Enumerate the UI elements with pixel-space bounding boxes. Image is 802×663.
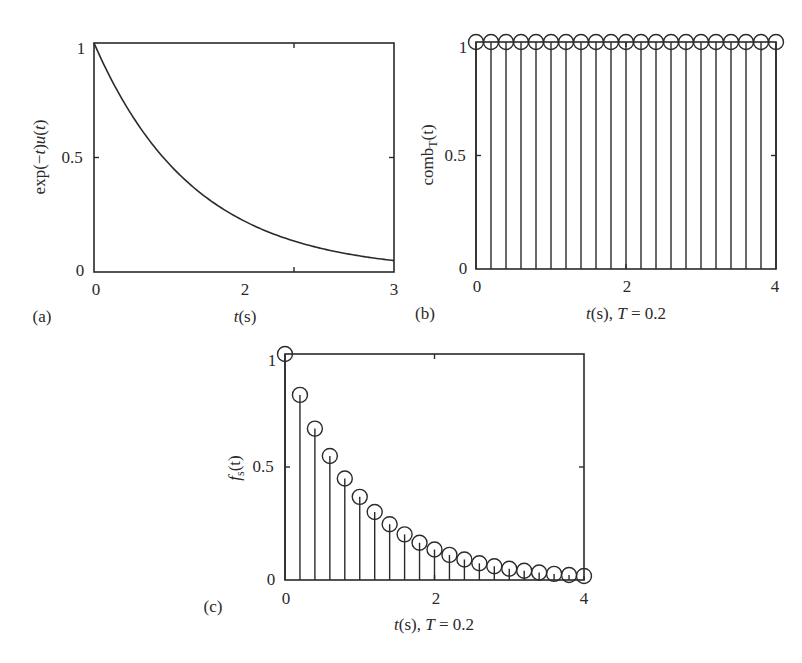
panel-a-ticks [94,43,394,272]
panel-c-sampled: 0 0.5 1 0 2 4 t(s), T = 0.2 fs(t) (c) [204,347,592,635]
panel-a-xlabel: t(s) [234,307,257,326]
panel-c-ylabel: fs(t) [225,455,247,480]
figure: 0 0.5 1 0 2 3 t(s) exp(−t)u(t) (a) 0 0.5… [0,0,802,663]
panel-a-ytick-1: 1 [77,39,86,58]
panel-a-tag: (a) [33,307,52,326]
panel-a-xtick-3: 3 [390,280,399,299]
panel-b-ylabel: combT(t) [418,124,440,185]
panel-c-ytick-0: 0 [267,570,276,589]
panel-c-xtick-2: 2 [432,589,441,608]
panel-a-exponential: 0 0.5 1 0 2 3 t(s) exp(−t)u(t) (a) [30,39,398,326]
panel-a-xtick-2: 2 [241,280,250,299]
panel-c-xtick-0: 0 [282,589,291,608]
panel-a-axes-frame [94,43,394,272]
panel-b-ytick-0: 0 [459,259,468,278]
panel-a-ytick-0: 0 [76,261,85,280]
panel-b-ytick-1: 1 [459,38,468,57]
panel-b-ytick-0.5: 0.5 [444,146,465,165]
panel-b-xtick-0: 0 [473,277,482,296]
panel-a-ylabel: exp(−t)u(t) [30,120,49,195]
exponential-curve [94,43,394,261]
panel-b-tag: (b) [415,304,435,323]
panel-b-xtick-4: 4 [771,277,780,296]
panel-a-xtick-0: 0 [92,280,101,299]
panel-c-ytick-0.5: 0.5 [252,457,273,476]
panel-c-xtick-4: 4 [580,589,589,608]
panel-b-comb: 0 0.5 1 0 2 4 t(s), T = 0.2 combT(t) (b) [415,35,783,324]
panel-c-tag: (c) [204,597,223,616]
panel-c-stems [278,347,592,584]
panel-b-xtick-2: 2 [623,277,632,296]
panel-b-stems [469,35,784,270]
panel-a-ytick-0.5: 0.5 [61,148,82,167]
panel-c-xlabel: t(s), T = 0.2 [394,615,474,634]
panel-c-ytick-1: 1 [268,351,277,370]
panel-b-xlabel: t(s), T = 0.2 [586,304,666,323]
